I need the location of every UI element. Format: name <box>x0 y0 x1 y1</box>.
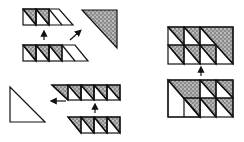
strip-c <box>52 85 120 100</box>
strip-a <box>23 9 73 25</box>
arrow-to-shaded-triangle <box>70 31 80 40</box>
diagram-canvas <box>0 0 244 142</box>
strip-b <box>23 45 88 61</box>
shaded-triangle <box>82 10 117 48</box>
top-block <box>168 27 233 64</box>
bottom-block <box>168 80 233 117</box>
strip-d <box>68 117 120 133</box>
plain-triangle <box>10 87 45 122</box>
